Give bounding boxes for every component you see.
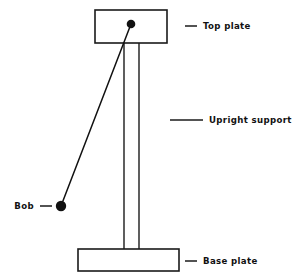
- base-plate-annotation: Base plate: [185, 256, 258, 266]
- top-plate-label: Top plate: [203, 21, 251, 31]
- diagram-canvas: Top plate Upright support Base plate Bob: [0, 0, 293, 280]
- base-plate-shape: [78, 249, 179, 271]
- upright-support-annotation: Upright support: [170, 115, 292, 125]
- bob-dot: [56, 201, 66, 211]
- bob-label: Bob: [14, 201, 34, 211]
- bob-annotation: Bob: [14, 201, 52, 211]
- pendulum-string: [61, 24, 131, 206]
- upright-support-label: Upright support: [209, 115, 292, 125]
- base-plate-label: Base plate: [203, 256, 258, 266]
- pivot-point-dot: [127, 20, 136, 29]
- top-plate-annotation: Top plate: [185, 21, 251, 31]
- upright-support-shape: [124, 43, 139, 250]
- pendulum-diagram: Top plate Upright support Base plate Bob: [0, 0, 293, 280]
